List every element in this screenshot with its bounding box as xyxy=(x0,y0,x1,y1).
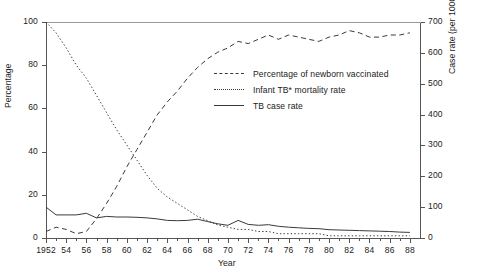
legend-swatch-dotted xyxy=(214,85,244,95)
legend-item-tb-case-rate[interactable]: TB case rate xyxy=(214,98,389,114)
chart-legend: Percentage of newborn vaccinatedInfant T… xyxy=(214,66,389,114)
legend-item-vaccinated[interactable]: Percentage of newborn vaccinated xyxy=(214,66,389,82)
chart-canvas: Percentage Case rate (per 100000 populat… xyxy=(0,0,487,275)
series-line-dashed xyxy=(46,31,410,234)
legend-label: TB case rate xyxy=(253,101,303,111)
plot-lines xyxy=(0,0,487,275)
legend-item-infant-mortality[interactable]: Infant TB* mortality rate xyxy=(214,82,389,98)
legend-label: Percentage of newborn vaccinated xyxy=(253,69,389,79)
series-line-dotted xyxy=(46,22,410,236)
legend-label: Infant TB* mortality rate xyxy=(253,85,346,95)
series-line-solid xyxy=(46,207,410,232)
legend-swatch-solid xyxy=(214,101,244,111)
legend-swatch-dashed xyxy=(214,69,244,79)
